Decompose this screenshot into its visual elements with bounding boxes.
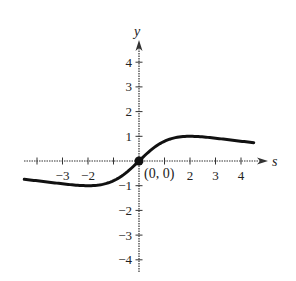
x-tick-label: 2	[187, 168, 194, 183]
x-axis	[24, 158, 268, 165]
x-axis-label: s	[272, 154, 278, 169]
x-tick-label: −3	[56, 168, 70, 183]
y-axis-label: y	[132, 24, 141, 39]
x-tick-label: 4	[238, 168, 245, 183]
origin-point	[135, 157, 144, 166]
y-tick-label: 3	[126, 79, 133, 94]
y-axis	[136, 40, 143, 272]
x-axis-arrow-icon	[257, 158, 268, 165]
y-tick-label: −4	[118, 252, 132, 267]
x-tick-label: −2	[81, 168, 95, 183]
y-tick-label: −3	[118, 228, 132, 243]
x-tick-label: 3	[212, 168, 219, 183]
y-tick-label: 1	[126, 129, 133, 144]
y-tick-label: 4	[126, 55, 133, 70]
y-tick-label: −2	[118, 203, 132, 218]
y-tick-label: −1	[118, 178, 132, 193]
y-tick-label: 2	[126, 104, 133, 119]
chart-plot: −3−2234 4321−1−2−3−4 s y (0, 0)	[0, 0, 296, 281]
origin-point-label: (0, 0)	[144, 166, 175, 182]
